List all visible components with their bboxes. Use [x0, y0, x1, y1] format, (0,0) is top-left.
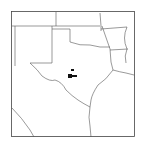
border-ks-mo: [100, 13, 101, 31]
coast-mexico-west: [12, 108, 34, 137]
coast-louisiana: [113, 70, 134, 75]
coast-texas: [90, 70, 113, 107]
border-tx-la: [110, 49, 113, 70]
distribution-map: [0, 0, 144, 149]
border-ar-mo: [101, 27, 127, 29]
occurrence-marker: [68, 74, 72, 78]
occurrence-marker: [71, 69, 74, 71]
border-mississippi: [125, 27, 128, 63]
border-red-river: [70, 42, 110, 47]
border-ar-la: [110, 49, 128, 50]
border-oklahoma-panhandle: [52, 29, 70, 42]
map-frame: [12, 12, 135, 137]
border-newmexico-east: [30, 26, 52, 63]
border-ok-ar: [102, 26, 110, 49]
occurrence-marker: [72, 75, 77, 77]
coast-mexico: [89, 107, 91, 137]
border-rio-grande: [30, 63, 90, 107]
